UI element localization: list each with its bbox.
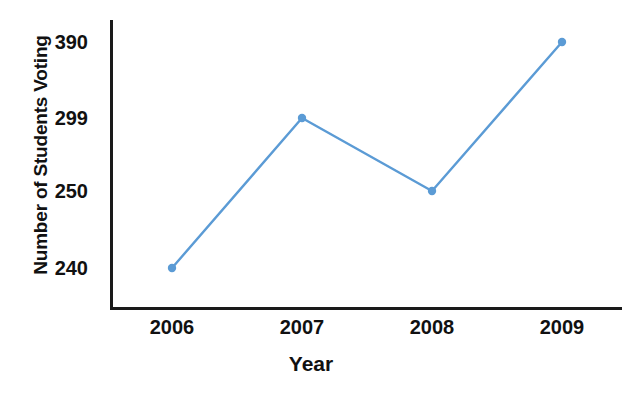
plot-area bbox=[0, 0, 628, 395]
data-point bbox=[558, 38, 566, 46]
data-series-line bbox=[172, 42, 562, 268]
line-chart: Number of Students Voting Year 390299250… bbox=[0, 0, 628, 395]
data-point bbox=[168, 264, 176, 272]
data-point bbox=[428, 187, 436, 195]
data-point bbox=[298, 114, 306, 122]
